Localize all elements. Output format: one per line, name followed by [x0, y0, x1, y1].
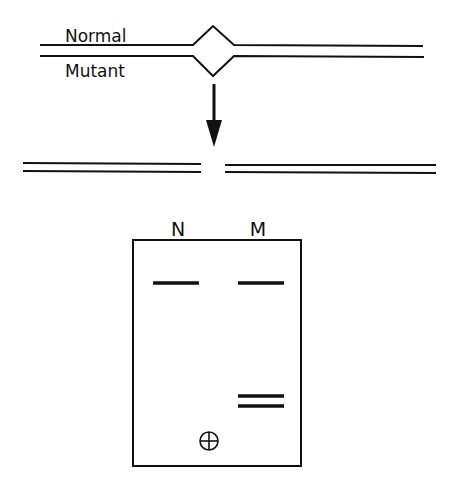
left-fragment-top — [23, 163, 201, 164]
gel-bands — [153, 283, 284, 406]
gel-box — [133, 240, 301, 466]
left-fragment-bottom — [23, 171, 201, 172]
lane-label-normal: N — [171, 218, 185, 240]
normal-label: Normal — [65, 26, 127, 46]
cleaved-dna-fragments — [23, 163, 436, 173]
positive-electrode-icon — [200, 432, 218, 450]
rflp-diagram: Normal Mutant N M — [0, 0, 453, 490]
lane-label-mutant: M — [250, 218, 266, 240]
mutant-label: Mutant — [65, 61, 125, 81]
right-fragment-bottom — [225, 172, 436, 173]
down-arrow-icon — [206, 84, 222, 147]
